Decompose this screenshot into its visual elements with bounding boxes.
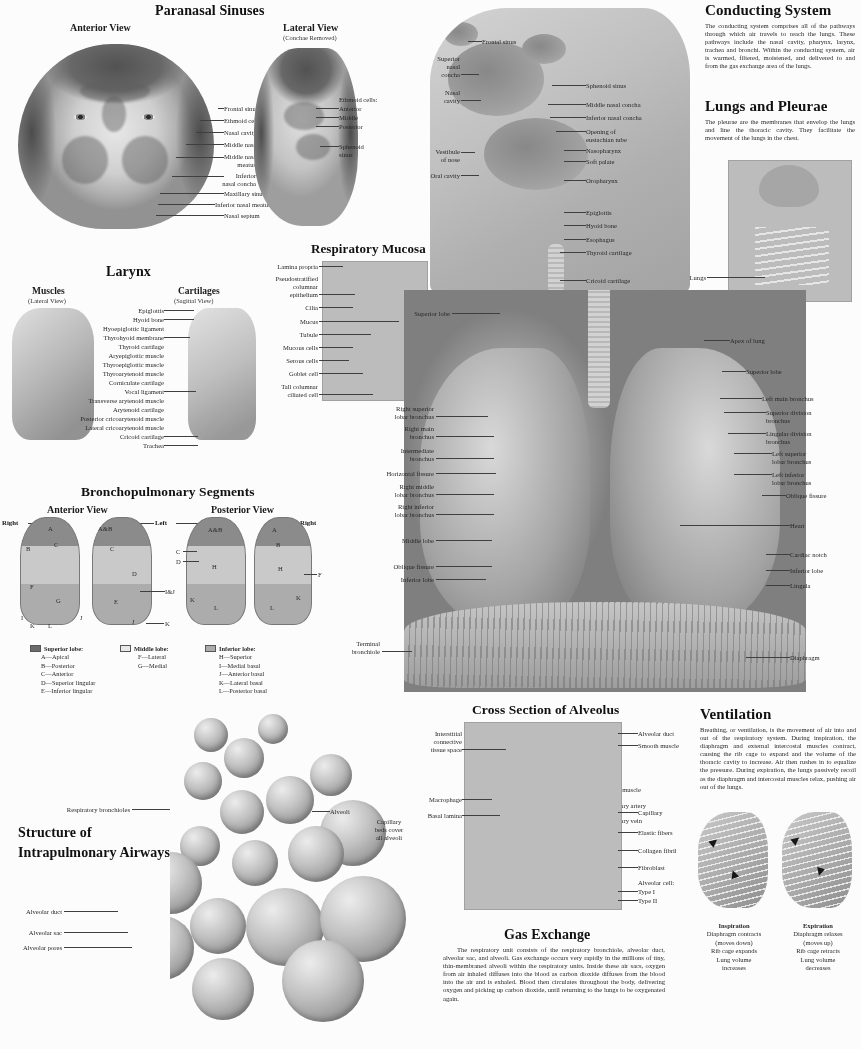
legend-item: A—Apical: [41, 653, 130, 661]
legend-superior-lobe-text: Superior lobe:: [44, 645, 83, 652]
label-sphenoid-sinus-2: sinus: [339, 151, 353, 159]
leader-23: [564, 150, 586, 151]
label-transverse-arytenoid-muscle: Transverse arytenoid muscle: [44, 397, 164, 405]
label-horizontal-fissure: Horizontal fissure: [330, 470, 434, 478]
legend-superior-lobe-heading: Superior lobe:: [30, 645, 130, 653]
diaphragm-body: [404, 602, 806, 688]
leader-4: [186, 144, 224, 145]
label-superior-division-2: bronchus: [766, 417, 790, 425]
label-sphenoid-sinus-head: Sphenoid sinus: [586, 82, 626, 90]
label-lingula: Lingula: [790, 582, 811, 590]
label-superior-nasal-2: nasal: [404, 63, 460, 71]
label-tissue-space: tissue space: [418, 746, 462, 754]
leader-63: [724, 412, 766, 413]
anterior-face-illustration: [18, 44, 214, 229]
label-cricoid-cartilage-head: Cricoid cartilage: [586, 277, 630, 285]
label-frontal-sinus: Frontal sinus: [224, 105, 258, 113]
legend-item: J—Anterior basal: [219, 670, 315, 678]
leader-24: [564, 161, 586, 162]
inspiration-caption: Inspiration Diaphragm contracts (moves d…: [692, 922, 776, 972]
thorax-ribcage-illustration: [728, 160, 852, 302]
leader-94: [618, 745, 638, 746]
label-cilia: Cilia: [246, 304, 318, 312]
left-eye: [74, 114, 87, 120]
legend-middle-lobe-list: F—Lateral G—Medial: [120, 653, 210, 670]
leader-89: [64, 947, 132, 948]
legend-middle-lobe-text: Middle lobe:: [134, 645, 169, 652]
label-alveoli: Alveoli: [330, 808, 350, 816]
label-left-superior-lobar-1: Left superior: [772, 450, 806, 458]
leader-51: [436, 436, 494, 437]
bps-letter-f-ar: F: [30, 583, 34, 590]
leader-95: [618, 812, 638, 813]
leader-67: [762, 495, 786, 496]
leader-20: [548, 104, 586, 105]
leader-3: [196, 132, 224, 133]
label-columnar: columnar: [246, 283, 318, 291]
leader-14: [461, 74, 479, 75]
label-capillary: Capillary: [638, 809, 663, 817]
label-frontal-sinus-head: Frontal sinus: [482, 38, 516, 46]
label-interstitial: Interstitial: [418, 730, 462, 738]
alveolus-sphere: [310, 754, 352, 796]
leader-1: [218, 108, 224, 109]
leader-13: [320, 146, 339, 147]
bps-letter-c-al: C: [110, 545, 114, 552]
expiration-line-3: Rib cage retracts: [776, 947, 860, 955]
legend-inferior-lobe: Inferior lobe: H—Superior I—Medial basal…: [205, 645, 315, 695]
label-nasopharynx: Nasopharynx: [586, 147, 621, 155]
larynx-muscles-heading: Muscles: [32, 286, 65, 296]
leader-85: [312, 811, 330, 812]
label-epiglottis: Epiglottis: [64, 307, 164, 315]
bps-letter-k-pl: K: [190, 596, 195, 603]
leader-42: [319, 307, 353, 308]
label-right-middle-lobar-2: lobar bronchus: [348, 491, 434, 499]
legend-inferior-lobe-text: Inferior lobe:: [219, 645, 256, 652]
label-elastic-fibers: Elastic fibers: [638, 829, 673, 837]
label-inferior-nasal-concha-head: Inferior nasal concha: [586, 114, 642, 122]
label-maxillary-sinus: Maxillary sinus: [224, 190, 265, 198]
larynx-muscles-note: (Lateral View): [28, 297, 66, 304]
label-lingular-division-2: bronchus: [766, 438, 790, 446]
alveolus-sphere: [220, 790, 264, 834]
label-opening-eustachian-1: Opening of: [586, 128, 616, 136]
label-smooth-muscle-cross: Smooth muscle: [638, 742, 679, 750]
label-vestibule-2: of nose: [404, 156, 460, 164]
bps-anterior-right-lung: [20, 517, 80, 625]
alveolus-sphere: [194, 718, 228, 752]
bps-letter-i-ar: I: [21, 614, 23, 621]
label-ethmoid-posterior: Posterior: [339, 123, 363, 131]
label-macrophage: Macrophage: [412, 796, 462, 804]
main-lungs-illustration: [404, 290, 806, 692]
left-maxillary-shade: [62, 136, 108, 184]
leader-17: [461, 175, 479, 176]
bps-letter-g-ar: G: [56, 597, 61, 604]
bps-anterior-view-heading: Anterior View: [47, 504, 108, 515]
right-lung-body: [420, 348, 590, 628]
label-superior-division-1: Superior division: [766, 409, 812, 417]
legend-middle-lobe-heading: Middle lobe:: [120, 645, 210, 653]
legend-item: F—Lateral: [138, 653, 210, 661]
alveolus-sphere: [288, 826, 344, 882]
expiration-line-5: decreases: [776, 964, 860, 972]
label-corniculate-cartilage: Corniculate cartilage: [54, 379, 164, 387]
label-tall-columnar: Tall columnar: [246, 383, 318, 391]
leader-87: [64, 911, 118, 912]
bps-letter-h-pl: H: [212, 563, 217, 570]
alveolus-sphere: [190, 898, 246, 954]
head-silhouette: [759, 165, 819, 207]
leader-22: [556, 131, 586, 132]
leader-18: [468, 41, 482, 42]
leader-49: [452, 313, 500, 314]
leader-98: [618, 867, 638, 868]
paranasal-anterior-view-heading: Anterior View: [70, 22, 131, 33]
inspiration-heading: Inspiration: [718, 922, 749, 929]
legend-swatch-inferior: [205, 645, 216, 652]
label-thyrohyoid-membrane: Thyrohyoid membrane: [54, 334, 164, 342]
bps-letter-l-pr: L: [270, 604, 274, 611]
bronchopulmonary-segments-title: Bronchopulmonary Segments: [81, 484, 255, 500]
leader-11: [316, 117, 339, 118]
label-right-superior-lobar-1: Right superior: [348, 405, 434, 413]
legend-superior-lobe-list: A—Apical B—Posterior C—Anterior D—Superi…: [30, 653, 130, 695]
label-pseudostratified: Pseudostratified: [246, 275, 318, 283]
